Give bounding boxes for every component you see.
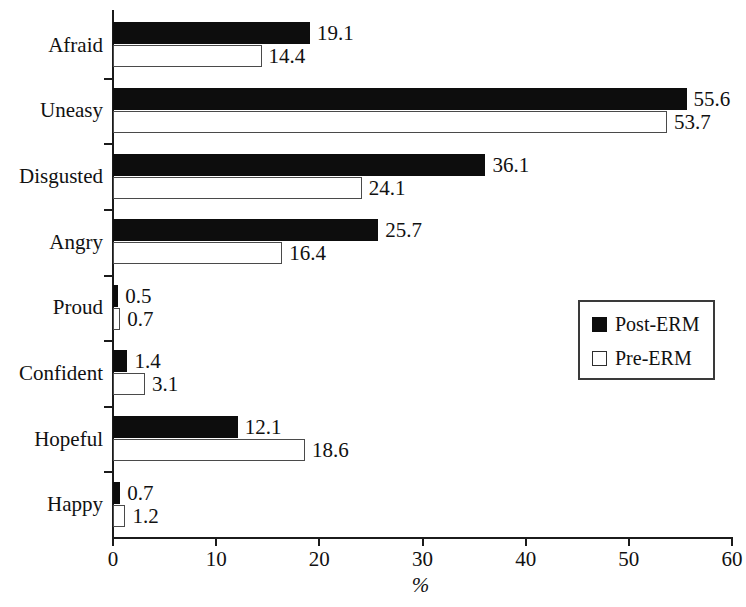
plot-area: Afraid19.114.4Uneasy55.653.7Disgusted36.… [113,12,732,537]
bar-post-erm [113,22,310,44]
bar-post-erm [113,350,127,372]
y-axis-tick [104,406,113,408]
bar-value-label: 0.7 [120,482,153,503]
legend-label-pre-erm: Pre-ERM [615,348,692,368]
bar-pre-erm [113,111,667,133]
bar-pre-erm [113,45,262,67]
bar-value-label: 53.7 [667,111,711,132]
x-axis-title: % [0,573,746,598]
x-axis-tick [422,537,424,546]
category-group: Hopeful12.118.6 [113,406,732,472]
x-axis-tick [731,537,733,546]
bar-value-label: 12.1 [238,417,282,438]
bar-row: 1.2 [113,505,732,527]
x-axis-tick [112,537,114,546]
bar-post-erm [113,154,485,176]
bar-value-label: 55.6 [687,88,731,109]
filled-square-icon [592,317,607,332]
x-axis-tick-label: 50 [618,547,639,571]
x-axis-tick-label: 30 [412,547,433,571]
x-axis-title-label: % [412,573,430,598]
y-axis-tick [104,340,113,342]
bar-pre-erm [113,505,125,527]
bar-row: 24.1 [113,177,732,199]
y-axis-tick [104,275,113,277]
bar-chart: Afraid19.114.4Uneasy55.653.7Disgusted36.… [0,0,746,607]
bar-row: 53.7 [113,111,732,133]
category-group: Afraid19.114.4 [113,12,732,78]
bar-row: 14.4 [113,45,732,67]
bar-value-label: 1.4 [127,351,160,372]
y-axis-tick [104,143,113,145]
bar-pre-erm [113,439,305,461]
bar-pre-erm [113,242,282,264]
bar-value-label: 25.7 [378,220,422,241]
outlined-square-icon [592,351,607,366]
bar-value-label: 3.1 [145,374,178,395]
y-axis-tick [104,78,113,80]
bar-value-label: 0.5 [118,285,151,306]
category-label: Hopeful [0,429,103,450]
bar-value-label: 36.1 [485,154,529,175]
x-axis-tick [628,537,630,546]
x-axis-tick-label: 40 [515,547,536,571]
bar-value-label: 19.1 [310,23,354,44]
bar-row: 12.1 [113,416,732,438]
x-axis-tick [318,537,320,546]
category-label: Disgusted [0,166,103,187]
bar-value-label: 16.4 [282,243,326,264]
bar-row: 0.7 [113,482,732,504]
bar-value-label: 1.2 [125,505,158,526]
x-axis-tick [525,537,527,546]
bar-value-label: 14.4 [262,46,306,67]
category-label: Uneasy [0,100,103,121]
bar-post-erm [113,482,120,504]
bar-pre-erm [113,373,145,395]
bar-post-erm [113,219,378,241]
chart-legend: Post-ERM Pre-ERM [578,300,715,380]
bar-row: 25.7 [113,219,732,241]
bar-post-erm [113,88,687,110]
bar-row: 18.6 [113,439,732,461]
legend-item-post-erm: Post-ERM [592,314,699,334]
legend-label-post-erm: Post-ERM [615,314,699,334]
bar-value-label: 0.7 [120,308,153,329]
bar-row: 16.4 [113,242,732,264]
category-group: Disgusted36.124.1 [113,143,732,209]
bar-post-erm [113,416,238,438]
category-label: Angry [0,232,103,253]
bar-value-label: 18.6 [305,440,349,461]
bar-pre-erm [113,177,362,199]
category-label: Happy [0,494,103,515]
category-label: Confident [0,363,103,384]
bar-row: 55.6 [113,88,732,110]
x-axis-tick [215,537,217,546]
bar-pre-erm [113,308,120,330]
x-axis-tick-label: 10 [206,547,227,571]
y-axis-tick [104,209,113,211]
category-group: Uneasy55.653.7 [113,78,732,144]
x-axis-tick-label: 20 [309,547,330,571]
bar-row: 36.1 [113,154,732,176]
bar-value-label: 24.1 [362,177,406,198]
legend-item-pre-erm: Pre-ERM [592,348,692,368]
bar-row: 19.1 [113,22,732,44]
category-label: Proud [0,297,103,318]
category-group: Happy0.71.2 [113,471,732,537]
x-axis-tick-label: 0 [108,547,119,571]
category-group: Angry25.716.4 [113,209,732,275]
x-axis-tick-label: 60 [722,547,743,571]
y-axis-tick [104,471,113,473]
category-label: Afraid [0,35,103,56]
